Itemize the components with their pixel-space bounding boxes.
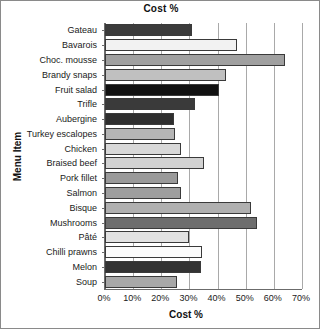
gridline-70 bbox=[302, 23, 303, 289]
bar-melon bbox=[105, 261, 201, 273]
category-label-aubergine: Aubergine bbox=[0, 114, 97, 124]
category-tick bbox=[102, 60, 105, 61]
bar-brandy-snaps bbox=[105, 69, 226, 81]
bar-fruit-salad bbox=[105, 84, 219, 96]
bar-gateau bbox=[105, 24, 192, 36]
bar-turkey-escalopes bbox=[105, 128, 175, 140]
category-label-bavarois: Bavarois bbox=[0, 40, 97, 50]
bar-row bbox=[105, 39, 302, 51]
x-tick-20: 20% bbox=[151, 293, 169, 303]
bar-pork-fillet bbox=[105, 172, 178, 184]
bar-aubergine bbox=[105, 113, 174, 125]
bar-braised-beef bbox=[105, 157, 204, 169]
category-tick bbox=[102, 75, 105, 76]
category-label-soup: Soup bbox=[0, 277, 97, 287]
bar-bisque bbox=[105, 202, 251, 214]
x-tick-10: 10% bbox=[123, 293, 141, 303]
category-tick bbox=[102, 163, 105, 164]
category-label-melon: Melon bbox=[0, 262, 97, 272]
x-tick-60: 60% bbox=[264, 293, 282, 303]
category-tick bbox=[102, 208, 105, 209]
category-label-braised-beef: Braised beef bbox=[0, 158, 97, 168]
category-label-chilli-prawns: Chilli prawns bbox=[0, 247, 97, 257]
bar-row bbox=[105, 69, 302, 81]
bar-chilli-prawns bbox=[105, 246, 202, 258]
category-tick bbox=[102, 223, 105, 224]
category-label-trifle: Trifle bbox=[0, 99, 97, 109]
bar-p-t bbox=[105, 231, 189, 243]
category-label-p-t: Pâté bbox=[0, 232, 97, 242]
bar-salmon bbox=[105, 187, 181, 199]
x-axis-line bbox=[104, 289, 302, 290]
bar-bavarois bbox=[105, 39, 237, 51]
category-tick bbox=[102, 178, 105, 179]
bar-row bbox=[105, 128, 302, 140]
bar-row bbox=[105, 157, 302, 169]
category-label-fruit-salad: Fruit salad bbox=[0, 85, 97, 95]
bar-series bbox=[105, 23, 302, 289]
bar-row bbox=[105, 98, 302, 110]
category-label-salmon: Salmon bbox=[0, 188, 97, 198]
category-label-choc-mousse: Choc. mousse bbox=[0, 55, 97, 65]
x-tick-40: 40% bbox=[208, 293, 226, 303]
bar-mushrooms bbox=[105, 217, 257, 229]
category-tick bbox=[102, 134, 105, 135]
bar-soup bbox=[105, 276, 177, 288]
category-tick bbox=[102, 193, 105, 194]
bar-trifle bbox=[105, 98, 195, 110]
bar-row bbox=[105, 84, 302, 96]
category-label-gateau: Gateau bbox=[0, 25, 97, 35]
bar-row bbox=[105, 187, 302, 199]
bar-row bbox=[105, 231, 302, 243]
bar-row bbox=[105, 276, 302, 288]
x-tick-0: 0% bbox=[97, 293, 110, 303]
category-axis-labels: GateauBavaroisChoc. mousseBrandy snapsFr… bbox=[1, 23, 101, 289]
bar-row bbox=[105, 261, 302, 273]
chart-figure: Cost % Menu Item GateauBavaroisChoc. mou… bbox=[0, 0, 320, 329]
category-tick bbox=[102, 149, 105, 150]
chart-title: Cost % bbox=[1, 3, 320, 14]
category-tick bbox=[102, 267, 105, 268]
bar-row bbox=[105, 24, 302, 36]
category-tick bbox=[102, 119, 105, 120]
category-tick bbox=[102, 237, 105, 238]
category-label-chicken: Chicken bbox=[0, 144, 97, 154]
bar-choc-mousse bbox=[105, 54, 285, 66]
bar-row bbox=[105, 202, 302, 214]
category-tick bbox=[102, 282, 105, 283]
bar-chicken bbox=[105, 143, 181, 155]
category-label-mushrooms: Mushrooms bbox=[0, 218, 97, 228]
category-label-bisque: Bisque bbox=[0, 203, 97, 213]
category-tick bbox=[102, 252, 105, 253]
bar-row bbox=[105, 143, 302, 155]
category-tick bbox=[102, 90, 105, 91]
category-label-brandy-snaps: Brandy snaps bbox=[0, 70, 97, 80]
bar-row bbox=[105, 217, 302, 229]
x-tick-50: 50% bbox=[236, 293, 254, 303]
plot-area bbox=[104, 23, 303, 289]
bar-row bbox=[105, 246, 302, 258]
x-axis-label: Cost % bbox=[61, 309, 311, 320]
bar-row bbox=[105, 113, 302, 125]
category-label-turkey-escalopes: Turkey escalopes bbox=[0, 129, 97, 139]
category-tick bbox=[102, 30, 105, 31]
x-tick-30: 30% bbox=[179, 293, 197, 303]
x-axis-tick-labels: 0%10%20%30%40%50%60%70% bbox=[1, 293, 320, 307]
category-tick bbox=[102, 104, 105, 105]
x-tick-70: 70% bbox=[292, 293, 310, 303]
bar-row bbox=[105, 172, 302, 184]
category-tick bbox=[102, 45, 105, 46]
category-label-pork-fillet: Pork fillet bbox=[0, 173, 97, 183]
bar-row bbox=[105, 54, 302, 66]
